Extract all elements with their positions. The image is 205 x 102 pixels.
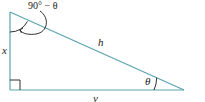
triangle-svg	[0, 0, 205, 102]
top-angle-label: 90° − θ	[28, 1, 57, 11]
horizontal-side-label: y	[93, 93, 98, 102]
right-triangle-diagram: 90° − θ h x y θ	[0, 0, 205, 102]
hypotenuse-h	[10, 12, 184, 90]
hypotenuse-label: h	[98, 37, 104, 48]
bottom-angle-arc	[154, 78, 157, 90]
bottom-angle-label: θ	[145, 76, 150, 87]
right-angle-marker	[10, 80, 20, 90]
vertical-side-label: x	[2, 45, 7, 56]
top-angle-arc	[10, 21, 28, 32]
